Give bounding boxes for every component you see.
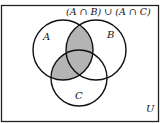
set-c-label: C [75,90,83,101]
diagram-title: (A ∩ B) ∪ (A ∩ C) [66,6,151,17]
venn-diagram: (A ∩ B) ∪ (A ∩ C) A B C U [0,0,160,123]
set-a-label: A [42,31,50,42]
set-b-label: B [106,29,114,40]
universe-label: U [146,103,155,114]
